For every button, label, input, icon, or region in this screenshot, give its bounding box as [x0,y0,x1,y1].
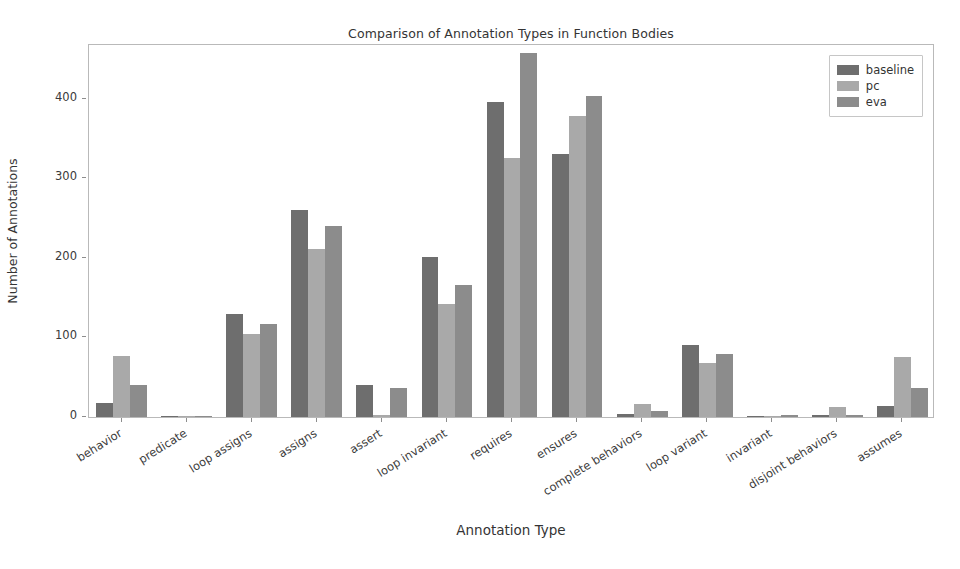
figure-canvas: Comparison of Annotation Types in Functi… [0,0,960,569]
y-axis-tick: 200 [35,257,89,258]
x-axis-tick-label: loop invariant [375,426,450,480]
x-axis-tick-label: predicate [136,426,189,467]
x-axis-tick-mark [381,418,382,422]
y-axis-tick-label: 200 [55,249,77,263]
y-axis-tick: 400 [35,98,89,99]
x-axis-tick-mark [706,418,707,422]
x-axis-label: Annotation Type [88,522,934,538]
y-axis-tick: 100 [35,336,89,337]
y-axis-tick: 0 [35,416,89,417]
x-axis-tick-label: loop assigns [186,426,254,476]
y-axis-tick-label: 0 [70,408,77,422]
x-axis-tick-mark [511,418,512,422]
y-axis-label-container: Number of Annotations [42,44,43,418]
x-axis-tick-mark [446,418,447,422]
x-axis-tick-mark [186,418,187,422]
y-axis-tick-label: 100 [55,328,77,342]
x-axis-tick-label: loop variant [644,426,710,474]
x-axis-tick-label: assert [347,426,384,457]
x-axis-tick-mark [251,418,252,422]
x-axis-tick-mark [316,418,317,422]
x-axis-tick-mark [771,418,772,422]
chart-title: Comparison of Annotation Types in Functi… [88,26,934,41]
x-axis-tick-label: behavior [74,426,124,465]
x-axis-tick-label: invariant [724,426,775,465]
x-axis-tick-label: assumes [855,426,905,465]
x-axis-tick-label: ensures [534,426,580,462]
y-axis-tick-mark [82,257,86,258]
y-axis-tick-mark [82,98,86,99]
y-axis-tick-label: 300 [55,169,77,183]
x-axis-tick-label: requires [467,426,514,463]
x-axis-tick-mark [901,418,902,422]
y-axis-tick-label: 400 [55,90,77,104]
x-axis-tick-mark [121,418,122,422]
y-axis-tick: 300 [35,177,89,178]
x-axis-tick-label: assigns [275,426,319,461]
x-axis-tick-mark [641,418,642,422]
x-axis-tick-mark [576,418,577,422]
y-axis-tick-mark [82,336,86,337]
x-axis-ticks: behaviorpredicateloop assignsassignsasse… [88,44,934,418]
y-axis-label: Number of Annotations [5,158,20,303]
y-axis-tick-mark [82,416,86,417]
x-axis-tick-mark [836,418,837,422]
y-axis-tick-mark [82,177,86,178]
